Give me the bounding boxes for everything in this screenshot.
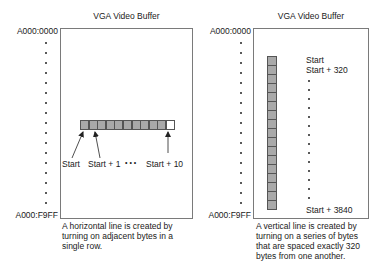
label-v-start-plus-320: Start + 320	[306, 65, 348, 75]
byte-cell	[267, 200, 277, 210]
right-panel-title: VGA Video Buffer	[253, 11, 369, 21]
label-ellipsis: • • •	[125, 159, 136, 166]
label-start-plus-1: Start + 1	[88, 159, 120, 169]
label-start: Start	[62, 159, 80, 169]
left-caption: A horizontal line is created by turning …	[62, 221, 180, 251]
vertical-byte-column	[267, 56, 277, 216]
label-v-start: Start	[306, 55, 324, 65]
right-caption: A vertical line is created by turning on…	[256, 221, 374, 261]
right-end-address: A000:F9FF	[190, 210, 251, 220]
label-start-plus-10: Start + 10	[146, 159, 183, 169]
label-v-start-plus-3840: Start + 3840	[306, 205, 353, 215]
right-label-ellipsis	[307, 78, 311, 203]
right-start-address: A000:0000	[190, 26, 251, 36]
right-address-ellipsis	[239, 40, 243, 210]
